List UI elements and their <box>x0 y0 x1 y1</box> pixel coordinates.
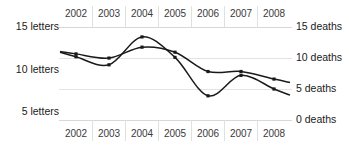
data-point-marker <box>206 94 209 97</box>
data-point-marker <box>272 77 275 80</box>
data-point-marker <box>206 70 209 73</box>
series-deaths-line <box>60 37 290 96</box>
data-point-marker <box>239 70 242 73</box>
data-point-marker <box>173 56 176 59</box>
data-point-marker <box>107 56 110 59</box>
data-point-marker <box>107 63 110 66</box>
series-plot-area <box>0 0 349 146</box>
series-deaths <box>60 35 290 97</box>
data-point-marker <box>74 55 77 58</box>
series-deaths-markers <box>74 35 275 97</box>
chart-container: 2002 2003 2004 2005 2006 2007 2008 2002 … <box>0 0 349 146</box>
data-point-marker <box>173 51 176 54</box>
data-point-marker <box>239 74 242 77</box>
data-point-marker <box>272 87 275 90</box>
data-point-marker <box>140 46 143 49</box>
data-point-marker <box>74 52 77 55</box>
data-point-marker <box>140 35 143 38</box>
